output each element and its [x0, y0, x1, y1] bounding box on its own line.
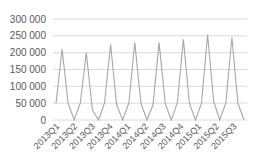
line-chart: 050 000100 000150 000200 000250 000300 0…: [0, 0, 261, 165]
data-line: [56, 35, 244, 120]
y-tick-label: 0: [40, 115, 46, 126]
y-axis-labels: 050 000100 000150 000200 000250 000300 0…: [10, 14, 47, 126]
y-tick-label: 50 000: [15, 98, 46, 109]
y-tick-label: 250 000: [10, 30, 47, 41]
gridlines: [53, 19, 247, 120]
x-axis-labels: 2013Q12013Q22013Q32013Q42014Q12014Q22014…: [32, 121, 239, 151]
y-tick-label: 300 000: [10, 14, 47, 25]
y-tick-label: 150 000: [10, 64, 47, 75]
y-tick-label: 200 000: [10, 47, 47, 58]
y-tick-label: 100 000: [10, 81, 47, 92]
